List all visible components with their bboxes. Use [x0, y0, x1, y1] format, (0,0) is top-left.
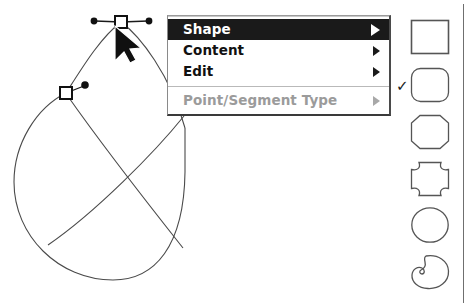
- menu-item-point-segment-type-label: Point/Segment Type: [183, 92, 337, 108]
- control-handle-top-left[interactable]: [91, 18, 98, 25]
- blob-icon: [410, 253, 450, 291]
- chevron-right-icon: [371, 24, 380, 36]
- app-root: Shape Content Edit Point/Segment Type: [0, 0, 474, 307]
- control-handle-left[interactable]: [81, 81, 89, 89]
- main-circle-outline[interactable]: [14, 93, 185, 280]
- control-handle-top-right[interactable]: [146, 18, 153, 25]
- swatch-rounded-rectangle[interactable]: ✓: [410, 67, 450, 103]
- swatch-circle[interactable]: [410, 206, 450, 244]
- swatch-concave-square[interactable]: [410, 161, 450, 197]
- checkmark-icon: ✓: [396, 79, 410, 93]
- chord-line-a[interactable]: [67, 95, 183, 248]
- shape-style-palette[interactable]: ✓: [396, 0, 474, 307]
- swatch-rectangle[interactable]: [410, 19, 450, 55]
- swatch-octagon[interactable]: [410, 114, 450, 150]
- anchor-point-left[interactable]: [60, 87, 72, 99]
- menu-item-point-segment-type: Point/Segment Type: [168, 90, 389, 111]
- chevron-right-icon: [373, 67, 380, 77]
- menu-item-shape[interactable]: Shape: [168, 19, 389, 40]
- menu-separator: [168, 86, 389, 87]
- menu-item-content[interactable]: Content: [168, 40, 389, 61]
- chevron-right-icon: [373, 96, 380, 106]
- octagon-icon: [410, 114, 450, 150]
- menu-item-edit-label: Edit: [183, 63, 213, 79]
- rounded-rectangle-icon: [410, 67, 450, 103]
- circle-icon: [410, 206, 450, 244]
- menu-item-content-label: Content: [183, 42, 244, 58]
- menu-item-shape-label: Shape: [183, 21, 231, 37]
- menu-item-edit[interactable]: Edit: [168, 61, 389, 82]
- palette-divider: [463, 4, 464, 303]
- chevron-right-icon: [373, 46, 380, 56]
- rectangle-icon: [410, 19, 450, 55]
- shape-context-menu[interactable]: Shape Content Edit Point/Segment Type: [167, 15, 391, 116]
- anchor-point-top[interactable]: [115, 16, 127, 28]
- swatch-blob[interactable]: [410, 253, 450, 291]
- chord-line-b[interactable]: [48, 116, 184, 245]
- concave-square-icon: [410, 161, 450, 197]
